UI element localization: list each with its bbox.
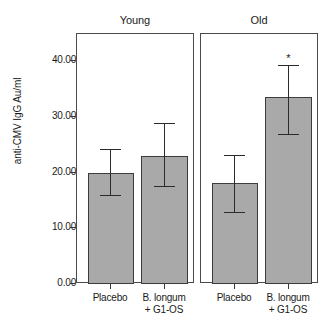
panel-title-old: Old (200, 13, 318, 27)
error-bar-cap-upper-old-treatment (278, 65, 299, 66)
error-bar-cap-upper-young-placebo (100, 149, 121, 150)
panel-title-young: Young (76, 13, 194, 27)
error-bar-stem-old-treatment (288, 65, 289, 134)
x-tick-label-old-treatment: B. longum + G1-OS (255, 292, 321, 316)
error-bar-cap-upper-old-placebo (224, 155, 245, 156)
error-bar-cap-lower-old-placebo (224, 212, 245, 213)
y-axis: 40.00 30.00 20.00 10.00 0.00 (26, 0, 76, 331)
panel-old: * (200, 33, 318, 283)
x-tick-mark-young-treatment (164, 283, 165, 289)
panel-young (76, 33, 194, 283)
chart-figure: anti-CMV IgG Au/ml 40.00 30.00 20.00 10.… (0, 0, 330, 331)
error-bar-cap-lower-old-treatment (278, 134, 299, 135)
plot-area-old: * (201, 34, 317, 282)
error-bar-cap-upper-young-treatment (154, 123, 175, 124)
x-tick-mark-old-placebo (234, 283, 235, 289)
y-tick-mark-0 (70, 283, 76, 284)
x-tick-label-young-treatment: B. longum + G1-OS (131, 292, 197, 316)
bar-young-placebo[interactable] (88, 173, 134, 284)
y-axis-title: anti-CMV IgG Au/ml (12, 56, 24, 186)
error-bar-cap-lower-young-treatment (154, 186, 175, 187)
error-bar-stem-young-treatment (164, 123, 165, 186)
plot-area-young (77, 34, 193, 282)
x-tick-mark-old-treatment (288, 283, 289, 289)
error-bar-cap-lower-young-placebo (100, 195, 121, 196)
significance-asterisk-old-treatment: * (278, 54, 299, 63)
error-bar-stem-young-placebo (110, 149, 111, 195)
bar-old-placebo[interactable] (212, 183, 258, 284)
error-bar-stem-old-placebo (234, 155, 235, 212)
x-tick-mark-young-placebo (110, 283, 111, 289)
